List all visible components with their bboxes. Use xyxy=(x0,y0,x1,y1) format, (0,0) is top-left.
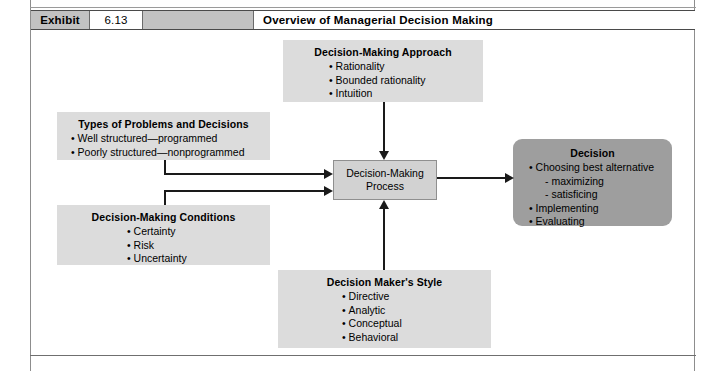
exhibit-label: Exhibit xyxy=(31,11,90,29)
bottom-rule xyxy=(30,355,696,356)
exhibit-header-bar: Exhibit 6.13 Overview of Managerial Deci… xyxy=(31,10,695,30)
exhibit-title: Overview of Managerial Decision Making xyxy=(254,11,695,29)
exhibit-page-frame xyxy=(30,0,695,371)
top-rule xyxy=(30,7,696,8)
exhibit-number: 6.13 xyxy=(90,11,143,29)
exhibit-header-spacer xyxy=(143,11,254,29)
